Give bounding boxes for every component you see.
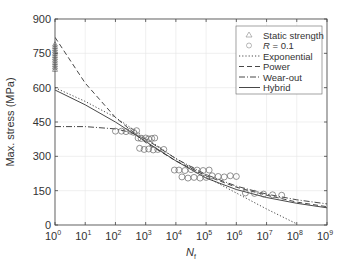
chart-canvas: 0150300450600750900 10010110210310410510… (0, 0, 349, 271)
legend-label: Exponential (263, 51, 313, 62)
legend-label: Static strength (263, 30, 324, 41)
circle-marker (197, 175, 203, 181)
x-tick-label: 102 (105, 229, 121, 242)
y-tick-label: 450 (33, 116, 51, 128)
x-tick-label: 105 (196, 229, 212, 242)
x-tick-label: 109 (317, 229, 333, 242)
x-tick-label: 101 (75, 229, 91, 242)
circle-marker (221, 174, 227, 180)
y-tick-label: 750 (33, 47, 51, 59)
x-tick-labels: 100101102103104105106107108109 (45, 229, 333, 242)
legend-label: Hybrid (263, 82, 290, 93)
x-tick-label: 100 (45, 229, 61, 242)
legend-label: Power (263, 61, 290, 72)
fatigue-chart: 0150300450600750900 10010110210310410510… (0, 0, 349, 271)
circle-marker (206, 167, 212, 173)
y-tick-labels: 0150300450600750900 (33, 13, 51, 231)
x-axis-label: Nf (186, 246, 196, 260)
y-tick-label: 300 (33, 150, 51, 162)
y-tick-label: 600 (33, 82, 51, 94)
x-tick-label: 107 (256, 229, 272, 242)
circle-marker (227, 173, 233, 179)
x-tick-label: 106 (226, 229, 242, 242)
x-tick-label: 104 (166, 229, 182, 242)
legend: Static strengthR = 0.1ExponentialPowerWe… (236, 26, 324, 94)
y-axis-label: Max. stress (MPa) (4, 77, 16, 166)
legend-label: R = 0.1 (263, 40, 294, 51)
circle-marker (191, 174, 197, 180)
curve-wear-out (55, 127, 327, 204)
circle-marker (182, 168, 188, 174)
y-tick-label: 900 (33, 13, 51, 25)
curve-hybrid (55, 90, 327, 208)
legend-label: Wear-out (263, 72, 302, 83)
circle-marker (176, 167, 182, 173)
y-tick-label: 150 (33, 185, 51, 197)
circle-marker (185, 175, 191, 181)
circle-marker (179, 174, 185, 180)
x-tick-label: 108 (287, 229, 303, 242)
circle-marker (215, 173, 221, 179)
x-tick-label: 103 (136, 229, 152, 242)
circle-marker (279, 192, 285, 198)
